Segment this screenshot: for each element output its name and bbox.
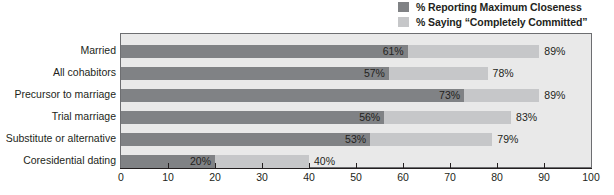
x-axis-tick-label: 50 (350, 171, 362, 183)
x-axis-tick (168, 163, 169, 168)
x-axis-tick-label: 80 (491, 171, 503, 183)
bar-value-label-light: 89% (539, 45, 565, 58)
bar-value-label-dark: 73% (439, 89, 464, 102)
legend-label-reporting-maximum-closeness: % Reporting Maximum Closeness (416, 1, 582, 13)
legend-item-completely-committed: % Saying “Completely Committed” (398, 16, 614, 27)
x-axis-tick (215, 163, 216, 168)
plot-area: 61%89%57%78%73%89%56%83%53%79%20%40% (120, 33, 592, 168)
category-label: All cohabitors (0, 66, 116, 79)
bar-value-label-light: 79% (492, 133, 518, 146)
bar-value-label-dark: 56% (359, 111, 384, 124)
x-axis-tick-label: 70 (444, 171, 456, 183)
bar-value-label-light: 89% (539, 89, 565, 102)
x-axis-tick (450, 163, 451, 168)
x-axis-tick-label: 90 (538, 171, 550, 183)
x-axis-tick (309, 163, 310, 168)
bar-value-label-light: 83% (511, 111, 537, 124)
x-axis: 0102030405060708090100 (120, 168, 592, 195)
x-axis-tick-label: 20 (209, 171, 221, 183)
bar-row: 61%89% (121, 45, 591, 58)
bar-row: 53%79% (121, 133, 591, 146)
legend-item-reporting-maximum-closeness: % Reporting Maximum Closeness (398, 1, 614, 12)
x-axis-tick-label: 10 (162, 171, 174, 183)
category-label: Precursor to marriage (0, 88, 116, 101)
legend-swatch-dark-icon (398, 2, 409, 12)
bar-row: 57%78% (121, 67, 591, 80)
category-label: Trial marriage (0, 110, 116, 123)
x-axis-tick (262, 163, 263, 168)
category-label: Coresidential dating (0, 154, 116, 167)
bar-value-label-light: 78% (488, 67, 514, 80)
legend-swatch-light-icon (398, 17, 409, 27)
bar-reporting-maximum-closeness (121, 111, 384, 124)
bar-reporting-maximum-closeness (121, 133, 370, 146)
x-axis-tick (356, 163, 357, 168)
bar-row: 56%83% (121, 111, 591, 124)
bar-reporting-maximum-closeness (121, 89, 464, 102)
x-axis-tick (497, 163, 498, 168)
bar-value-label-dark: 57% (364, 67, 389, 80)
x-axis-tick (544, 163, 545, 168)
bar-reporting-maximum-closeness (121, 67, 389, 80)
x-axis-tick-label: 60 (397, 171, 409, 183)
chart-legend: % Reporting Maximum Closeness % Saying “… (398, 1, 614, 27)
bar-value-label-dark: 61% (383, 45, 408, 58)
bar-value-label-dark: 53% (345, 133, 370, 146)
x-axis-tick-label: 30 (256, 171, 268, 183)
horizontal-bar-chart: % Reporting Maximum Closeness % Saying “… (0, 0, 614, 195)
bar-value-label-dark: 20% (190, 155, 215, 168)
bar-reporting-maximum-closeness (121, 45, 408, 58)
x-axis-tick-label: 0 (118, 171, 124, 183)
x-axis-tick-label: 100 (582, 171, 600, 183)
category-label: Substitute or alternative (0, 132, 116, 145)
legend-label-completely-committed: % Saying “Completely Committed” (416, 16, 587, 28)
x-axis-line (120, 168, 592, 169)
bar-row: 73%89% (121, 89, 591, 102)
bar-value-label-light: 40% (309, 155, 335, 168)
category-axis-labels: MarriedAll cohabitorsPrecursor to marria… (0, 33, 116, 168)
x-axis-tick (403, 163, 404, 168)
category-label: Married (0, 44, 116, 57)
x-axis-tick-label: 40 (303, 171, 315, 183)
